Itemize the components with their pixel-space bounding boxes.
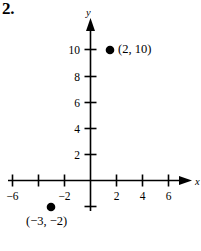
y-axis-arrowhead (86, 18, 95, 31)
y-axis-label: y (86, 7, 91, 18)
x-tick-label--2: −2 (49, 190, 80, 202)
data-point-label--3--2: (−3, −2) (26, 215, 67, 227)
x-tick-label--6: −6 (0, 190, 28, 202)
y-tick-label-8: 8 (50, 71, 80, 83)
y-tick-label-6: 6 (50, 97, 80, 109)
y-tick-label-4: 4 (50, 123, 80, 135)
y-tick-label-10: 10 (50, 44, 80, 56)
y-tick-label-2: 2 (50, 149, 80, 161)
data-point-label-2-10: (2, 10) (118, 43, 151, 55)
figure-container: 2. (0, 0, 201, 251)
data-point-2-10 (106, 46, 115, 55)
x-axis-arrowhead (179, 176, 192, 185)
data-point--3--2 (47, 203, 56, 212)
x-axis-label: x (195, 176, 200, 187)
x-tick-label-6: 6 (153, 190, 184, 202)
